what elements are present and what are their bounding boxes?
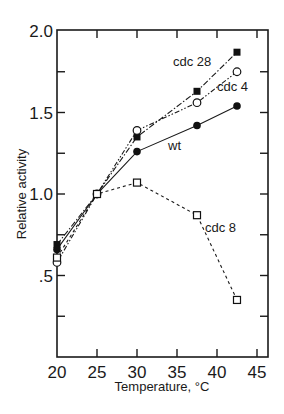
open-square-marker	[94, 191, 101, 198]
series-lines	[57, 52, 237, 300]
series-label: cdc 4	[217, 79, 248, 94]
series-line	[57, 183, 237, 300]
y-tick-label: 2.0	[29, 22, 53, 41]
x-tick-label: 25	[88, 363, 107, 382]
open-circle-marker	[233, 68, 241, 76]
y-axis-title: Relative activity	[14, 148, 29, 239]
open-circle-marker	[193, 99, 201, 107]
filled-circle-marker	[233, 102, 241, 110]
filled-square-marker	[194, 88, 201, 95]
x-tick-label: 20	[48, 363, 67, 382]
line-chart: 202530354045.51.01.52.0 cdc 28cdc 4wtcdc…	[0, 0, 284, 414]
x-tick-label: 40	[208, 363, 227, 382]
x-tick-label: 45	[248, 363, 267, 382]
y-tick-label: 1.0	[29, 185, 53, 204]
series-label: cdc 28	[173, 54, 211, 69]
open-square-marker	[54, 254, 61, 261]
open-square-marker	[234, 296, 241, 303]
series-markers	[53, 49, 241, 304]
filled-circle-marker	[53, 246, 61, 254]
open-square-marker	[194, 212, 201, 219]
y-tick-label: .5	[39, 267, 53, 286]
x-axis-title: Temperature, °C	[115, 379, 210, 394]
open-circle-marker	[133, 127, 141, 135]
open-square-marker	[134, 179, 141, 186]
filled-circle-marker	[193, 122, 201, 130]
y-tick-label: 1.5	[29, 104, 53, 123]
filled-circle-marker	[133, 148, 141, 156]
filled-square-marker	[234, 49, 241, 56]
series-label: cdc 8	[205, 220, 236, 235]
series-label: wt	[167, 138, 181, 153]
